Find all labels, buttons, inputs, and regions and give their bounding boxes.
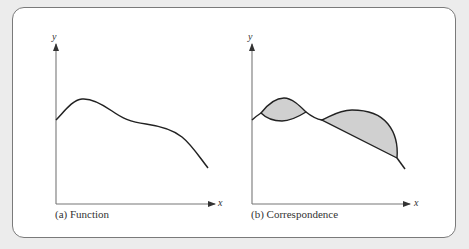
function-axes [56, 44, 215, 204]
function-y-label: y [52, 31, 56, 42]
function-caption: (a) Function [55, 208, 109, 220]
correspondence-shaded-region-right [322, 110, 397, 158]
correspondence-y-label: y [248, 31, 252, 42]
correspondence-caption: (b) Correspondence [251, 208, 338, 220]
correspondence-curve [252, 113, 261, 120]
correspondence-curve-tail [397, 158, 405, 169]
correspondence-curve-middle [306, 112, 322, 120]
function-curve [56, 99, 208, 168]
correspondence-shaded-region-left [261, 98, 306, 121]
function-x-label: x [218, 197, 222, 208]
correspondence-x-label: x [414, 197, 418, 208]
